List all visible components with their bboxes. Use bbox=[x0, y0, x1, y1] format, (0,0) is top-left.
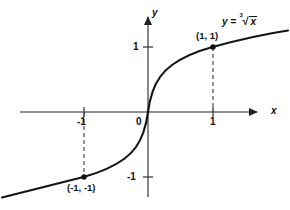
origin-label: 0 bbox=[136, 117, 142, 127]
radical-expression: 3√x bbox=[239, 16, 257, 27]
point-label-one-one: (1, 1) bbox=[196, 31, 218, 41]
x-tick-label-negative-one: -1 bbox=[77, 117, 86, 127]
x-tick-label-one: 1 bbox=[210, 117, 216, 127]
y-axis-label: y bbox=[152, 8, 158, 18]
radical-index: 3 bbox=[239, 12, 242, 18]
point-label-neg-one-neg-one: (-1, -1) bbox=[67, 183, 96, 193]
cube-root-curve bbox=[2, 31, 288, 198]
radicand: x bbox=[249, 16, 257, 27]
cube-root-graph-figure: x y 0 -1 1 1 -1 (1, 1) (-1, -1) y=3√x bbox=[0, 0, 290, 210]
equation-lhs: y bbox=[222, 16, 228, 27]
equation-equals-sign: = bbox=[231, 16, 237, 27]
data-point-neg-one-neg-one bbox=[81, 174, 86, 179]
y-tick-label-one: 1 bbox=[133, 42, 139, 52]
plot-canvas bbox=[0, 0, 290, 210]
data-point-one-one bbox=[210, 44, 215, 49]
x-axis-label: x bbox=[271, 106, 277, 116]
radical-surd-icon: √ bbox=[242, 16, 248, 27]
equation-label: y=3√x bbox=[222, 16, 257, 27]
y-tick-label-negative-one: -1 bbox=[127, 172, 136, 182]
